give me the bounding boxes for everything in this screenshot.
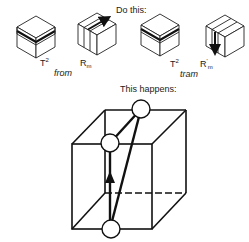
move-label-rm-prime-tram: R'm — [200, 58, 213, 70]
result-cube-diagram — [72, 109, 186, 229]
edge-piece-bottom-front — [102, 220, 120, 238]
diagram-canvas — [0, 0, 249, 242]
move-label-rm-from: Rm — [80, 59, 92, 69]
cube-top-layer-half-turn-icon — [17, 16, 55, 58]
move-label-t2-from: T2 — [40, 57, 49, 68]
cube-top-layer-half-turn-icon — [141, 14, 179, 56]
edge-piece-top-back — [132, 100, 150, 118]
this-happens-label: This happens: — [120, 85, 177, 94]
sequence-name-from: from — [54, 69, 72, 78]
do-this-label: Do this: — [116, 6, 147, 15]
move-label-t2-tram: T2 — [170, 58, 179, 69]
edge-piece-front-top — [101, 134, 119, 152]
cube-middle-slice-turn-icon — [78, 13, 116, 55]
sequence-name-tram: tram — [180, 70, 198, 79]
cube-middle-slice-inverse-turn-icon — [206, 15, 244, 57]
arrow-up-icon — [105, 171, 115, 183]
